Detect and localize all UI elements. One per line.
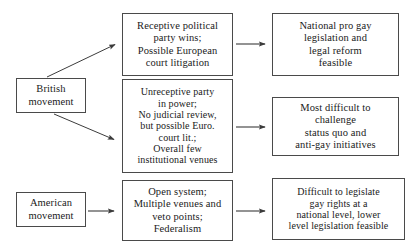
node-unreceptive-party-label: Unreceptive party in power; No judicial … — [125, 86, 230, 166]
node-most-difficult-label: Most difficult to challenge status quo a… — [275, 102, 396, 152]
node-american-movement-label: American movement — [19, 197, 83, 222]
node-national-pro-gay: National pro gay legislation and legal r… — [272, 13, 399, 76]
node-american-movement: American movement — [16, 192, 86, 227]
node-open-system: Open system; Multiple venues and veto po… — [122, 180, 233, 241]
edge-british-to-unreceptive — [54, 114, 114, 140]
edge-british-to-receptive — [47, 45, 115, 78]
node-national-pro-gay-label: National pro gay legislation and legal r… — [275, 20, 396, 70]
node-difficult-legislate: Difficult to legislate gay rights at a n… — [272, 178, 405, 240]
node-most-difficult: Most difficult to challenge status quo a… — [272, 97, 399, 156]
node-unreceptive-party: Unreceptive party in power; No judicial … — [122, 79, 233, 173]
node-receptive-party: Receptive political party wins; Possible… — [122, 13, 233, 76]
node-difficult-legislate-label: Difficult to legislate gay rights at a n… — [275, 186, 402, 232]
node-receptive-party-label: Receptive political party wins; Possible… — [125, 20, 230, 70]
node-open-system-label: Open system; Multiple venues and veto po… — [125, 186, 230, 236]
flowchart-diagram: British movement American movement Recep… — [0, 0, 413, 252]
node-british-movement: British movement — [16, 78, 86, 113]
node-british-movement-label: British movement — [19, 83, 83, 108]
